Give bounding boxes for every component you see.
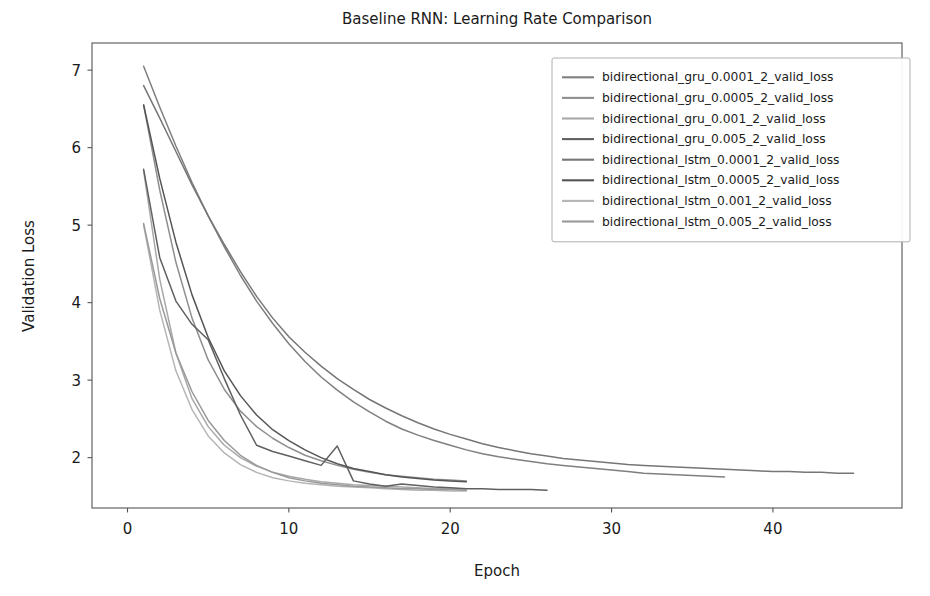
series-line-3 [144, 169, 547, 490]
legend-label-5[interactable]: bidirectional_lstm_0.0005_2_valid_loss [602, 173, 839, 187]
series-line-6 [144, 225, 467, 491]
x-tick-label: 20 [441, 520, 460, 538]
legend-label-6[interactable]: bidirectional_lstm_0.001_2_valid_loss [602, 194, 832, 208]
y-tick-label: 6 [71, 139, 81, 157]
x-tick-label: 30 [602, 520, 621, 538]
chart-legend[interactable]: bidirectional_gru_0.0001_2_valid_lossbid… [552, 58, 910, 242]
y-tick-label: 2 [71, 449, 81, 467]
legend-label-1[interactable]: bidirectional_gru_0.0005_2_valid_loss [602, 91, 834, 105]
legend-label-2[interactable]: bidirectional_gru_0.001_2_valid_loss [602, 112, 826, 126]
y-tick-label: 3 [71, 372, 81, 390]
line-chart-canvas: Baseline RNN: Learning Rate Comparison V… [0, 0, 930, 596]
legend-label-7[interactable]: bidirectional_lstm_0.005_2_valid_loss [602, 215, 832, 229]
y-tick-label: 7 [71, 62, 81, 80]
legend-label-4[interactable]: bidirectional_lstm_0.0001_2_valid_loss [602, 153, 839, 167]
legend-label-3[interactable]: bidirectional_gru_0.005_2_valid_loss [602, 132, 826, 146]
x-tick-label: 40 [763, 520, 782, 538]
series-line-2 [144, 171, 467, 490]
chart-title: Baseline RNN: Learning Rate Comparison [342, 10, 652, 28]
y-axis-label: Validation Loss [20, 220, 38, 332]
x-tick-label: 10 [279, 520, 298, 538]
x-axis-label: Epoch [474, 562, 520, 580]
y-axis-ticks: 234567 [71, 62, 92, 468]
series-line-5 [144, 105, 467, 482]
y-tick-label: 5 [71, 217, 81, 235]
x-tick-label: 0 [123, 520, 133, 538]
y-tick-label: 4 [71, 294, 81, 312]
x-axis-ticks: 010203040 [123, 508, 783, 538]
legend-label-0[interactable]: bidirectional_gru_0.0001_2_valid_loss [602, 70, 834, 84]
chart-figure: Baseline RNN: Learning Rate Comparison V… [0, 0, 930, 596]
